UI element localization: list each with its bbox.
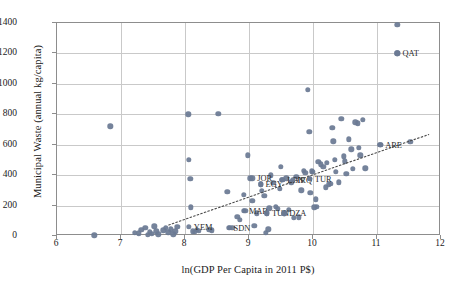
- point-label-are: ARE: [385, 140, 402, 149]
- y-axis-tick-mark: [52, 22, 56, 23]
- y-axis-tick-mark: [52, 205, 56, 206]
- y-axis-tick-mark: [52, 144, 56, 145]
- y-axis-title: Municipal Waste (annual kg/capita): [32, 7, 43, 237]
- point-label-sdn: SDN: [234, 223, 251, 232]
- y-axis-tick-label: 600: [0, 139, 17, 149]
- scatter-chart-figure: Municipal Waste (annual kg/capita) ln(GD…: [0, 0, 460, 289]
- point-label-tur: TUR: [315, 174, 332, 183]
- x-axis-tick-label: 9: [228, 238, 268, 248]
- y-axis-tick-mark: [52, 83, 56, 84]
- x-axis-tick-label: 7: [100, 238, 140, 248]
- y-axis-tick-label: 800: [0, 108, 17, 118]
- x-axis-tick-mark: [56, 235, 57, 239]
- y-axis-tick-mark: [52, 113, 56, 114]
- y-axis-tick-label: 0: [0, 230, 17, 240]
- x-axis-tick-mark: [312, 235, 313, 239]
- point-label-dza: DZA: [289, 209, 306, 218]
- x-axis-tick-label: 11: [356, 238, 396, 248]
- x-axis-tick-mark: [184, 235, 185, 239]
- y-axis-tick-mark: [52, 174, 56, 175]
- x-axis-tick-mark: [120, 235, 121, 239]
- x-axis-tick-mark: [376, 235, 377, 239]
- point-label-qat: QAT: [402, 49, 418, 58]
- y-axis-tick-label: 400: [0, 169, 17, 179]
- y-axis-tick-label: 200: [0, 200, 17, 210]
- x-axis-tick-label: 6: [36, 238, 76, 248]
- plot-area: QATAREJOREGYLBNIRQTURMARTUNDZAYEMSDN: [56, 22, 440, 235]
- x-axis-tick-mark: [248, 235, 249, 239]
- x-axis-tick-mark: [440, 235, 441, 239]
- x-axis-tick-label: 10: [292, 238, 332, 248]
- trendline: [57, 23, 439, 234]
- y-axis-tick-label: 1000: [0, 78, 17, 88]
- x-axis-tick-label: 8: [164, 238, 204, 248]
- y-axis-tick-label: 1200: [0, 47, 17, 57]
- point-label-yem: YEM: [194, 222, 213, 231]
- x-axis-tick-label: 12: [420, 238, 460, 248]
- y-axis-tick-mark: [52, 52, 56, 53]
- x-axis-title: ln(GDP Per Capita in 2011 P$): [56, 264, 440, 275]
- y-axis-tick-label: 1400: [0, 17, 17, 27]
